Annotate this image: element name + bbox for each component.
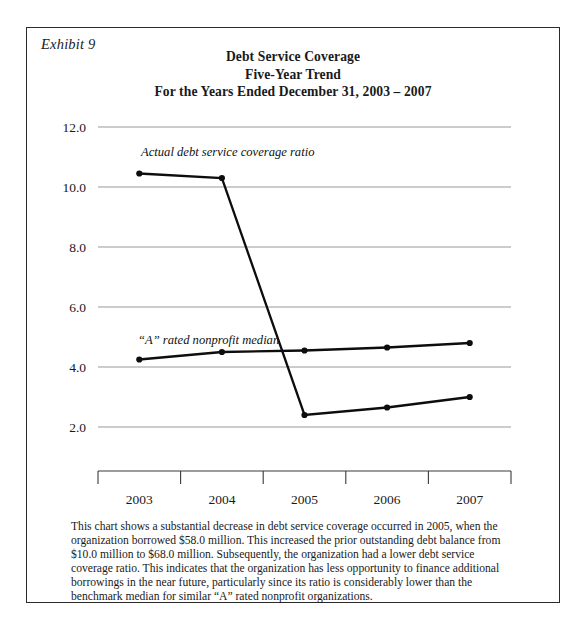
line-chart-svg: 12.010.08.06.04.02.0 2003200420052006200… bbox=[27, 28, 561, 604]
chart-plot-area: 12.010.08.06.04.02.0 2003200420052006200… bbox=[27, 28, 561, 604]
data-point bbox=[219, 349, 225, 355]
y-axis-tick-label: 4.0 bbox=[69, 360, 86, 375]
data-point bbox=[301, 347, 307, 353]
data-point bbox=[467, 394, 473, 400]
data-point bbox=[467, 340, 473, 346]
data-point bbox=[136, 170, 142, 176]
y-axis-tick-label: 6.0 bbox=[69, 300, 86, 315]
x-axis-tick-label: 2007 bbox=[456, 492, 483, 507]
annotation-actual-series: Actual debt service coverage ratio bbox=[140, 145, 314, 159]
x-axis-tick-labels: 20032004200520062007 bbox=[126, 492, 484, 507]
annotation-median-series: “A” rated nonprofit median bbox=[138, 333, 279, 347]
y-axis-tick-label: 12.0 bbox=[62, 120, 86, 135]
x-axis-tick-label: 2004 bbox=[208, 492, 235, 507]
data-point bbox=[301, 412, 307, 418]
exhibit-frame: Exhibit 9 Debt Service Coverage Five-Yea… bbox=[26, 27, 560, 603]
data-point bbox=[384, 344, 390, 350]
chart-caption: This chart shows a substantial decrease … bbox=[71, 520, 515, 605]
x-axis-tick-label: 2006 bbox=[374, 492, 401, 507]
series-line-actual bbox=[139, 174, 469, 416]
x-axis-tick-label: 2005 bbox=[291, 492, 318, 507]
x-axis-ticks bbox=[98, 471, 511, 484]
data-point bbox=[219, 175, 225, 181]
y-axis-tick-label: 10.0 bbox=[62, 180, 86, 195]
gridlines bbox=[98, 127, 511, 427]
y-axis-tick-label: 8.0 bbox=[69, 240, 86, 255]
data-point bbox=[136, 356, 142, 362]
y-axis-tick-label: 2.0 bbox=[69, 420, 86, 435]
y-axis-tick-labels: 12.010.08.06.04.02.0 bbox=[62, 120, 86, 435]
data-point bbox=[384, 404, 390, 410]
data-series-group bbox=[136, 170, 473, 418]
x-axis-tick-label: 2003 bbox=[126, 492, 153, 507]
